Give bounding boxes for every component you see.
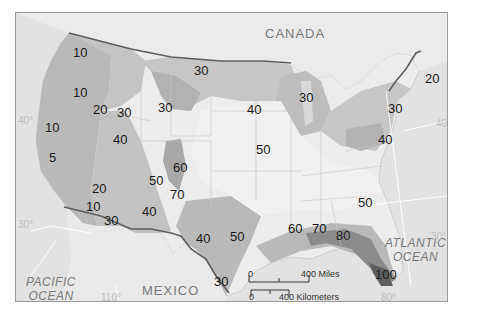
pacific-ocean-label: PACIFIC OCEAN (26, 275, 76, 302)
pacific-line-1: PACIFIC (26, 275, 76, 289)
lat-30-east: 30° (431, 232, 446, 242)
value-label: 40 (247, 103, 261, 116)
value-label: 50 (358, 196, 372, 209)
value-label: 10 (45, 121, 59, 134)
lat-40-west: 40° (18, 116, 33, 126)
value-label: 60 (288, 222, 302, 235)
atlantic-line-2: OCEAN (385, 250, 446, 264)
value-label: 5 (49, 151, 56, 164)
value-label: 30 (194, 64, 208, 77)
lon-80: 80° (381, 293, 396, 302)
value-label: 40 (196, 232, 210, 245)
value-label: 40 (113, 133, 127, 146)
lon-110: 110° (101, 293, 121, 302)
value-label: 30 (214, 275, 228, 288)
scale-km-zero: 0 (249, 293, 254, 302)
value-label: 80 (336, 229, 350, 242)
value-label: 10 (73, 86, 87, 99)
value-label: 20 (93, 103, 107, 116)
value-label: 50 (149, 174, 163, 187)
value-label: 100 (375, 268, 397, 281)
scale-miles-zero: 0 (248, 270, 253, 279)
value-label: 10 (73, 46, 87, 59)
value-label: 20 (92, 182, 106, 195)
value-label: 30 (388, 102, 402, 115)
map-frame: CANADA MEXICO PACIFIC OCEAN ATLANTIC OCE… (15, 12, 448, 302)
value-label: 40 (142, 205, 156, 218)
mexico-label: MEXICO (142, 284, 199, 297)
value-label: 30 (117, 106, 131, 119)
value-label: 10 (86, 200, 100, 213)
scale-km-label: 400 Kilometers (279, 293, 339, 302)
lat-40-east: 40° (436, 119, 448, 129)
value-label: 30 (299, 91, 313, 104)
pacific-line-2: OCEAN (26, 289, 76, 302)
value-label: 50 (230, 230, 244, 243)
value-label: 30 (158, 101, 172, 114)
value-label: 30 (104, 214, 118, 227)
lat-30-west: 30° (18, 220, 33, 230)
value-label: 70 (312, 222, 326, 235)
scale-miles-label: 400 Miles (301, 270, 340, 279)
value-label: 70 (170, 188, 184, 201)
value-label: 40 (378, 133, 392, 146)
value-label: 50 (256, 143, 270, 156)
value-label: 20 (425, 72, 439, 85)
value-label: 60 (173, 161, 187, 174)
canada-label: CANADA (265, 27, 325, 40)
